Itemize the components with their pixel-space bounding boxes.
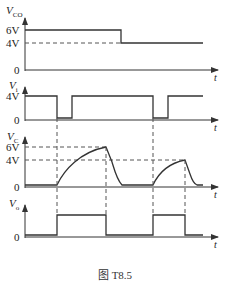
figure-caption: 图 T8.5 <box>0 266 230 282</box>
vo-t-label: t <box>214 240 217 250</box>
panel-vco <box>25 18 218 71</box>
vco-t-label: t <box>214 73 217 83</box>
panel-vi <box>25 87 218 121</box>
vc-6v-label: 6V <box>6 142 19 153</box>
vco-zero-label: 0 <box>14 65 20 76</box>
vi-zero-label: 0 <box>14 115 20 126</box>
vco-4v-label: 4V <box>6 38 19 49</box>
vo-waveform <box>25 215 203 235</box>
vc-zero-label: 0 <box>14 182 20 193</box>
timing-guides <box>57 118 185 215</box>
vco-axis-label: VCO <box>6 5 22 19</box>
panel-vo <box>25 205 218 238</box>
vc-t-label: t <box>214 190 217 200</box>
vc-4v-label: 4V <box>6 155 19 166</box>
vo-axis-label: Vo <box>9 198 19 212</box>
vco-waveform <box>25 30 203 43</box>
vi-waveform <box>25 96 203 118</box>
waveform-diagram <box>0 0 230 286</box>
vi-t-label: t <box>214 123 217 133</box>
vc-waveform <box>25 147 203 185</box>
vco-6v-label: 6V <box>6 25 19 36</box>
panel-vc <box>25 137 218 188</box>
vo-zero-label: 0 <box>14 232 20 243</box>
vi-4v-label: 4V <box>6 91 19 102</box>
